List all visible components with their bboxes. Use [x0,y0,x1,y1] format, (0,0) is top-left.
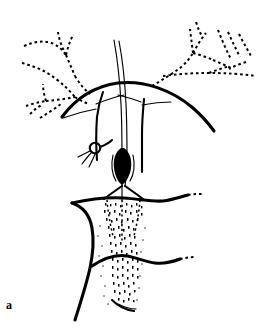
panel-label: a [6,299,12,311]
anatomical-line-drawing [0,0,269,328]
figure-panel: a [0,0,269,328]
